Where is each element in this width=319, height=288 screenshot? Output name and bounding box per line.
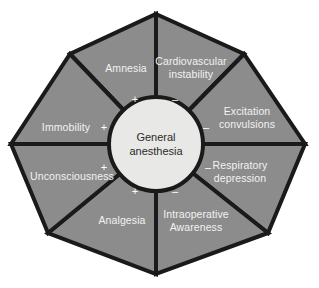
label-respiratory-line2: depression bbox=[214, 172, 266, 184]
sign-amnesia: + bbox=[132, 93, 138, 105]
sign-cardiovascular-instability: – bbox=[172, 93, 179, 105]
label-analgesia-line1: Analgesia bbox=[98, 214, 145, 226]
sign-intraoperative-awareness: – bbox=[172, 185, 179, 197]
label-respiratory-line1: Respiratory bbox=[213, 159, 268, 171]
label-cardiovascular-line2: instability bbox=[169, 68, 214, 80]
sign-analgesia: + bbox=[132, 185, 138, 197]
sign-immobility: + bbox=[101, 121, 107, 133]
label-cardiovascular-line1: Cardiovascular bbox=[155, 55, 227, 67]
label-immobility-line1: Immobility bbox=[42, 121, 91, 133]
label-excitation-line2: convulsions bbox=[219, 118, 275, 130]
sign-unconsciousness: + bbox=[101, 161, 107, 173]
label-excitation-line1: Excitation bbox=[224, 105, 271, 117]
octagon-wheel-diagram: Amnesia Cardiovascular instability Excit… bbox=[0, 0, 319, 288]
label-amnesia-line1: Amnesia bbox=[105, 62, 147, 74]
center-label-line2: anesthesia bbox=[129, 145, 183, 157]
label-intraoperative-line1: Intraoperative bbox=[163, 208, 229, 220]
label-intraoperative-line2: Awareness bbox=[170, 221, 223, 233]
center-label-line1: General bbox=[136, 131, 175, 143]
sign-excitation-convulsions: – bbox=[203, 121, 210, 133]
sign-respiratory-depression: – bbox=[205, 161, 212, 173]
diagram-canvas: Amnesia Cardiovascular instability Excit… bbox=[0, 0, 319, 288]
